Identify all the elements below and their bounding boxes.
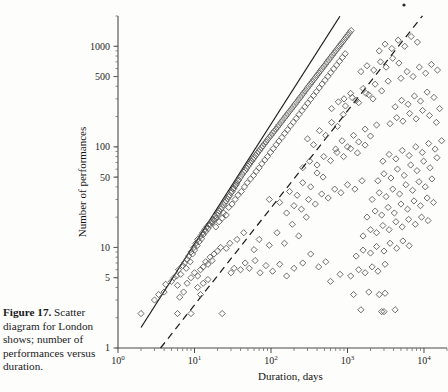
data-point-marker (394, 115, 400, 121)
data-point-marker (360, 247, 366, 253)
data-point-marker (417, 203, 423, 209)
data-point-marker (350, 132, 356, 138)
data-point-marker (339, 54, 345, 60)
data-point-marker (293, 115, 299, 121)
data-point-marker (344, 182, 350, 188)
data-point-marker (319, 81, 325, 87)
data-point-marker (342, 103, 348, 109)
data-point-marker (287, 123, 293, 129)
data-point-marker (263, 262, 269, 268)
data-point-marker (376, 190, 382, 196)
data-point-marker (200, 280, 206, 286)
data-point-marker (274, 230, 280, 236)
data-point-marker (433, 119, 439, 125)
x-axis-title: Duration, days (258, 370, 323, 382)
data-point-marker (439, 138, 445, 144)
data-point-marker (431, 94, 437, 100)
data-point-marker (418, 214, 424, 220)
data-point-marker (372, 208, 378, 214)
data-point-marker (294, 192, 300, 198)
data-point-marker (342, 51, 348, 57)
data-point-marker (408, 162, 414, 168)
data-point-marker (400, 118, 406, 124)
data-point-marker (337, 271, 343, 277)
scatter-plot-svg: 1510501005001000100101102103104Duration,… (0, 0, 448, 392)
data-point-marker (381, 171, 387, 177)
data-point-marker (396, 60, 402, 66)
data-point-marker (358, 307, 364, 313)
data-point-marker (223, 245, 229, 251)
data-point-marker (325, 195, 331, 201)
data-point-marker (362, 142, 368, 148)
data-point-marker (177, 294, 183, 300)
data-point-marker (381, 309, 387, 315)
data-point-marker (377, 59, 383, 65)
data-point-marker (180, 289, 186, 295)
data-point-marker (253, 168, 259, 174)
data-point-marker (312, 201, 318, 207)
data-point-marker (310, 92, 316, 98)
data-point-marker (341, 96, 347, 102)
data-point-marker (430, 199, 436, 205)
y-axis-tick-label: 100 (95, 141, 110, 152)
data-point-marker (277, 261, 283, 267)
data-point-marker (252, 257, 258, 263)
data-point-marker (353, 253, 359, 259)
data-point-marker (320, 174, 326, 180)
data-point-marker (362, 270, 368, 276)
data-point-marker (366, 289, 372, 295)
data-point-marker (393, 219, 399, 225)
data-points-layer (138, 27, 445, 316)
data-point-marker (369, 264, 375, 270)
data-point-marker (399, 224, 405, 230)
data-point-marker (426, 140, 432, 146)
data-point-marker (380, 222, 386, 228)
data-point-marker (298, 206, 304, 212)
axes-layer (114, 16, 448, 353)
y-axis-tick-label: 1 (105, 342, 110, 353)
data-point-marker (356, 267, 362, 273)
data-point-marker (399, 147, 405, 153)
data-point-marker (416, 64, 422, 70)
data-point-marker (266, 196, 272, 202)
data-point-marker (214, 248, 220, 254)
data-point-marker (424, 89, 430, 95)
data-point-marker (257, 270, 263, 276)
data-point-marker (256, 236, 262, 242)
x-axis-tick-label: 104 (417, 354, 431, 366)
data-point-marker (409, 187, 415, 193)
data-point-marker (305, 196, 311, 202)
data-point-marker (328, 119, 334, 125)
data-point-marker (296, 111, 302, 117)
data-point-marker (302, 104, 308, 110)
data-point-marker (387, 240, 393, 246)
data-point-marker (407, 110, 413, 116)
data-point-marker (251, 247, 257, 253)
data-point-marker (184, 280, 190, 286)
data-point-marker (354, 150, 360, 156)
data-point-marker (429, 176, 435, 182)
data-point-marker (406, 243, 412, 249)
data-point-marker (195, 273, 201, 279)
data-point-marker (188, 310, 194, 316)
data-point-marker (406, 152, 412, 158)
data-point-marker (404, 69, 410, 75)
data-point-marker (314, 170, 320, 176)
data-point-marker (332, 186, 338, 192)
data-point-marker (382, 41, 388, 47)
y-axis-tick-label: 500 (95, 71, 110, 82)
data-point-marker (350, 291, 356, 297)
data-point-marker (373, 122, 379, 128)
data-point-marker (335, 99, 341, 105)
data-point-marker (389, 45, 395, 51)
data-point-marker (256, 165, 262, 171)
data-point-marker (219, 310, 225, 316)
data-point-marker (352, 186, 358, 192)
data-point-marker (434, 155, 440, 161)
data-point-marker (282, 130, 288, 136)
data-point-marker (376, 291, 382, 297)
data-point-marker (308, 96, 314, 102)
data-point-marker (420, 107, 426, 113)
scan-artifact-speck (402, 3, 405, 6)
data-point-marker (314, 162, 320, 168)
